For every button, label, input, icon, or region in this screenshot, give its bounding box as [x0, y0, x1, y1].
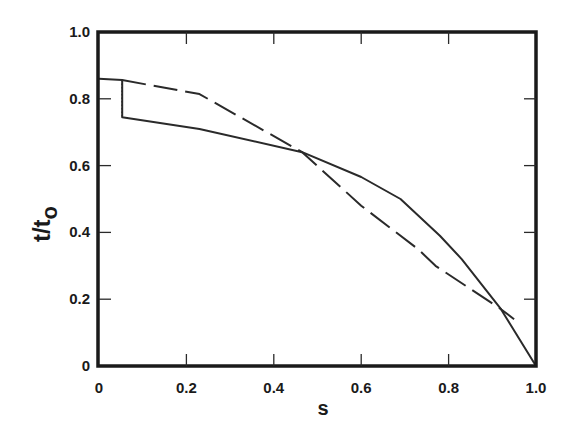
y-axis-label: t/to	[28, 206, 62, 242]
y-tick-label: 0.6	[69, 157, 90, 174]
x-axis-label: s	[317, 397, 328, 419]
series-solid-line	[99, 79, 536, 366]
y-tick-label: 0.4	[69, 223, 91, 240]
plot-frame	[98, 32, 536, 366]
x-tick-labels: 00.20.40.60.81.0	[95, 379, 547, 396]
x-tick-label: 0	[95, 379, 103, 396]
y-tick-label: 1.0	[69, 23, 90, 40]
y-tick-label: 0.2	[69, 290, 90, 307]
y-tick-label: 0.8	[69, 90, 90, 107]
y-tick-label: 0	[82, 357, 90, 374]
svg-text:t/to: t/to	[28, 206, 62, 242]
x-tick-label: 0.8	[438, 379, 459, 396]
plot-area	[99, 79, 536, 366]
x-tick-label: 0.4	[263, 379, 285, 396]
y-axis-label-sub: o	[37, 206, 62, 219]
axis-ticks	[99, 32, 536, 366]
x-tick-label: 0.2	[176, 379, 197, 396]
y-tick-labels: 00.20.40.60.81.0	[69, 23, 91, 374]
x-tick-label: 1.0	[526, 379, 547, 396]
chart: 00.20.40.60.81.0 00.20.40.60.81.0 s t/to	[0, 0, 579, 428]
y-axis-label-main: t/t	[28, 219, 55, 242]
series-dashed-line	[122, 80, 514, 319]
x-tick-label: 0.6	[351, 379, 372, 396]
